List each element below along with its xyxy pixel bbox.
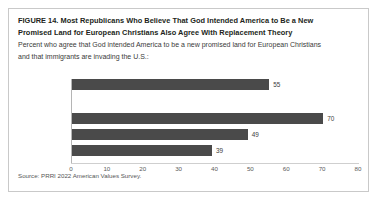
bar-chart-plot-area: All Americans55Republican70Independent49… — [9, 75, 369, 171]
bar-row: Republican70 — [9, 113, 369, 124]
figure-heading: FIGURE 14. Most Republicans Who Believe … — [18, 15, 360, 62]
bar-value-label: 70 — [327, 115, 334, 122]
x-axis-tick-label: 70 — [319, 165, 326, 172]
bar-value-label: 55 — [273, 81, 280, 88]
x-axis-line — [71, 163, 359, 164]
figure-card: FIGURE 14. Most Republicans Who Believe … — [8, 8, 369, 192]
x-axis-tick-label: 20 — [139, 165, 146, 172]
figure-subtitle-line-2: and that immigrants are invading the U.S… — [18, 51, 360, 62]
bar-value-label: 49 — [252, 131, 259, 138]
x-axis-tick-label: 40 — [211, 165, 218, 172]
bar-value-label: 39 — [216, 147, 223, 154]
bar-row: Democrat39 — [9, 145, 369, 156]
x-axis-tick-label: 60 — [283, 165, 290, 172]
x-axis-tick-label: 50 — [247, 165, 254, 172]
source-note: Source: PRRI 2022 American Values Survey… — [18, 172, 141, 179]
figure-subtitle: Percent who agree that God intended Amer… — [18, 39, 360, 62]
bar-row: Independent49 — [9, 129, 369, 140]
x-axis-tick-label: 80 — [355, 165, 362, 172]
figure-subtitle-line-1: Percent who agree that God intended Amer… — [18, 39, 360, 50]
x-axis-tick-label: 10 — [103, 165, 110, 172]
bar-row: All Americans55 — [9, 79, 369, 90]
figure-title-line-2: Promised Land for European Christians Al… — [18, 27, 360, 39]
bar — [72, 79, 269, 90]
x-axis-tick-label: 30 — [175, 165, 182, 172]
bar — [72, 145, 212, 156]
x-axis-tick-label: 0 — [69, 165, 72, 172]
bar — [72, 113, 323, 124]
figure-title-line-1: FIGURE 14. Most Republicans Who Believe … — [18, 15, 360, 27]
figure-title: FIGURE 14. Most Republicans Who Believe … — [18, 15, 360, 38]
bar — [72, 129, 248, 140]
